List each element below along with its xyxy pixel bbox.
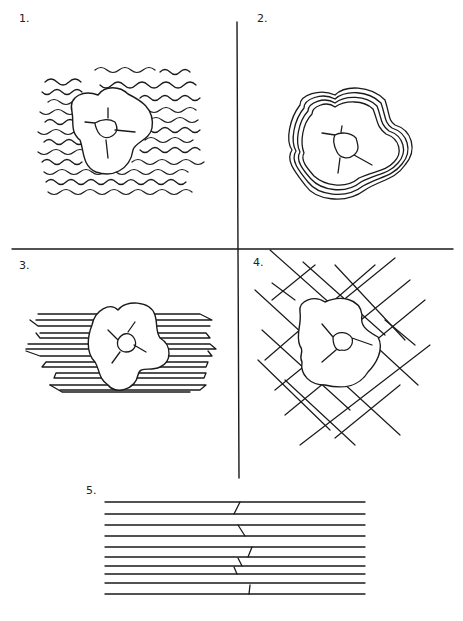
panel-2-concentric-fibres <box>289 88 412 199</box>
panel-dividers <box>12 22 453 478</box>
diagram-svg <box>0 0 463 621</box>
panel-3-granule <box>88 303 169 390</box>
figure-canvas: 1. 2. 3. 4. 5. <box>0 0 463 621</box>
panel-5-staggered-fibres <box>105 502 365 594</box>
panel-1-granule <box>71 88 152 174</box>
panel-4-granule <box>298 298 380 386</box>
